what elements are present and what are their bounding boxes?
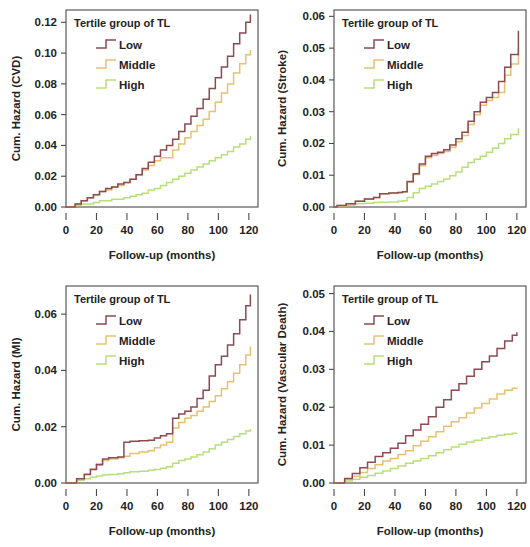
x-axis-title: Follow-up (months) [377, 525, 484, 537]
curve-high [334, 433, 517, 483]
y-axis-title: Cum. Hazard (MI) [10, 337, 22, 431]
x-tick-label: 60 [419, 500, 432, 512]
x-axis-title: Follow-up (months) [109, 525, 216, 537]
legend-label-high: High [387, 79, 413, 91]
x-tick-label: 40 [389, 224, 402, 236]
curve-middle [334, 388, 517, 483]
curve-high [334, 128, 518, 207]
y-tick-label: 0.10 [35, 47, 57, 59]
y-tick-label: 0.06 [35, 308, 57, 320]
chart-stroke: 0.000.010.020.030.040.050.06020406080100… [268, 0, 530, 271]
x-tick-label: 0 [63, 224, 69, 236]
curve-low [334, 332, 517, 483]
y-tick-label: 0.01 [303, 169, 326, 181]
x-tick-label: 60 [151, 224, 164, 236]
y-axis-title: Cum. Hazard (Stroke) [276, 50, 288, 167]
y-tick-label: 0.04 [35, 364, 58, 376]
x-tick-label: 80 [450, 224, 463, 236]
curve-middle [66, 50, 250, 207]
legend-swatch-middle [96, 336, 116, 344]
plot-frame [66, 10, 258, 207]
y-tick-label: 0.04 [303, 325, 326, 337]
legend-label-high: High [119, 355, 145, 367]
x-axis-title: Follow-up (months) [377, 249, 484, 261]
curve-low [334, 31, 518, 207]
x-tick-label: 20 [90, 224, 103, 236]
legend-swatch-high [364, 80, 384, 88]
y-axis-title: Cum. Hazard (Vascular Death) [276, 303, 288, 467]
curve-middle [334, 48, 518, 207]
x-tick-label: 20 [90, 500, 103, 512]
legend-label-low: Low [387, 39, 410, 51]
x-tick-label: 80 [182, 500, 195, 512]
chart-cvd: 0.000.020.040.060.080.100.12020406080100… [0, 0, 262, 271]
x-axis-title: Follow-up (months) [109, 249, 216, 261]
y-tick-label: 0.00 [35, 477, 57, 489]
y-tick-label: 0.05 [303, 288, 326, 300]
legend-title: Tertile group of TL [74, 293, 171, 305]
y-tick-label: 0.02 [35, 421, 57, 433]
legend-swatch-high [96, 356, 116, 364]
x-tick-label: 100 [477, 224, 496, 236]
x-tick-label: 0 [63, 500, 69, 512]
panel-stroke: 0.000.010.020.030.040.050.06020406080100… [268, 0, 530, 271]
x-tick-label: 80 [450, 500, 463, 512]
legend-swatch-low [364, 40, 384, 48]
chart-mi: 0.000.020.040.06020406080100120Follow-up… [0, 276, 262, 547]
x-tick-label: 80 [182, 224, 195, 236]
x-tick-label: 120 [507, 500, 526, 512]
curve-high [66, 429, 250, 483]
figure-panel-grid: 0.000.020.040.060.080.100.12020406080100… [0, 0, 530, 547]
x-tick-label: 60 [151, 500, 164, 512]
y-tick-label: 0.04 [35, 139, 58, 151]
curve-middle [66, 347, 250, 483]
x-tick-label: 100 [477, 500, 496, 512]
legend-label-middle: Middle [119, 335, 155, 347]
y-tick-label: 0.02 [303, 137, 325, 149]
legend-swatch-middle [364, 60, 384, 68]
legend-label-middle: Middle [387, 59, 423, 71]
y-tick-label: 0.04 [303, 74, 326, 86]
x-tick-label: 40 [121, 224, 134, 236]
chart-vascular-death: 0.000.010.020.030.040.05020406080100120F… [268, 276, 530, 547]
legend-label-low: Low [119, 39, 142, 51]
legend-swatch-middle [364, 336, 384, 344]
y-axis-title: Cum. Hazard (CVD) [10, 56, 22, 162]
x-tick-label: 100 [209, 500, 228, 512]
legend-label-high: High [119, 79, 145, 91]
panel-vascular-death: 0.000.010.020.030.040.05020406080100120F… [268, 276, 530, 547]
plot-frame [334, 10, 526, 207]
panel-mi: 0.000.020.040.06020406080100120Follow-up… [0, 276, 262, 547]
panel-cvd: 0.000.020.040.060.080.100.12020406080100… [0, 0, 262, 271]
legend-label-low: Low [387, 315, 410, 327]
y-tick-label: 0.02 [303, 401, 325, 413]
legend-label-middle: Middle [119, 59, 155, 71]
legend-swatch-low [96, 316, 116, 324]
y-tick-label: 0.00 [303, 477, 325, 489]
legend-swatch-high [96, 80, 116, 88]
legend-swatch-low [364, 316, 384, 324]
legend-title: Tertile group of TL [342, 17, 439, 29]
x-tick-label: 0 [331, 224, 337, 236]
legend-label-low: Low [119, 315, 142, 327]
x-tick-label: 120 [239, 224, 258, 236]
y-tick-label: 0.03 [303, 106, 325, 118]
curve-low [66, 15, 250, 207]
legend-title: Tertile group of TL [342, 293, 439, 305]
x-tick-label: 60 [419, 224, 432, 236]
y-tick-label: 0.01 [303, 439, 326, 451]
x-tick-label: 40 [121, 500, 134, 512]
y-tick-label: 0.06 [303, 10, 325, 22]
x-tick-label: 120 [507, 224, 526, 236]
legend-label-middle: Middle [387, 335, 423, 347]
y-tick-label: 0.06 [35, 109, 57, 121]
y-tick-label: 0.02 [35, 170, 57, 182]
legend-title: Tertile group of TL [74, 17, 171, 29]
y-tick-label: 0.12 [35, 16, 57, 28]
legend-swatch-high [364, 356, 384, 364]
y-tick-label: 0.00 [303, 201, 325, 213]
y-tick-label: 0.03 [303, 363, 325, 375]
plot-frame [334, 286, 526, 483]
x-tick-label: 0 [331, 500, 337, 512]
legend-swatch-low [96, 40, 116, 48]
